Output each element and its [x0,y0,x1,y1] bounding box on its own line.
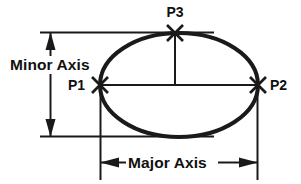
point-markers [92,25,266,93]
minor-axis-arrow-up-icon [46,32,56,50]
p2-label: P2 [270,77,287,93]
ellipse-diagram: Minor Axis Major Axis P1 P2 P3 [0,0,301,184]
minor-axis-dimension: Minor Axis [8,32,100,137]
p1-label: P1 [68,77,85,93]
minor-axis-arrow-down-icon [46,119,56,137]
minor-axis-label: Minor Axis [10,56,90,73]
major-axis-dimension: Major Axis [100,153,258,172]
major-axis-arrow-left-icon [100,158,119,168]
major-axis-arrow-right-icon [239,158,258,168]
major-axis-label: Major Axis [128,154,207,171]
p3-label: P3 [166,4,183,20]
axis-chords [100,33,258,85]
diagram-canvas: Minor Axis Major Axis P1 P2 P3 [0,0,301,184]
